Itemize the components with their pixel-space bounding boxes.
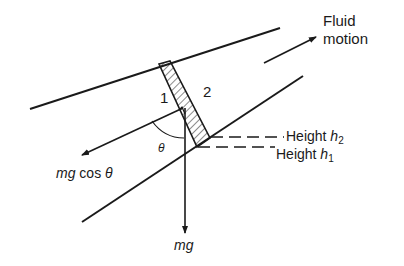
- mg-label: mg: [174, 238, 193, 252]
- section-2-label: 2: [203, 84, 211, 99]
- height-h2-label: Height h2: [286, 129, 344, 146]
- fluid-motion-label: Fluid motion: [323, 12, 368, 48]
- height-h2-text: Height: [286, 128, 330, 144]
- height-h1-text: Height: [276, 146, 320, 162]
- fluid-motion-label-line1: Fluid: [323, 12, 368, 30]
- height-h1-variable: h: [320, 146, 328, 162]
- theta-angle-arc: [152, 121, 184, 138]
- mg-cos-theta-arrow: [82, 108, 183, 155]
- streamtube-upper-wall: [30, 28, 280, 109]
- mg-cos-theta-mg: mg: [56, 165, 75, 181]
- height-h1-subscript: 1: [328, 153, 334, 164]
- streamtube-lower-wall: [82, 76, 303, 222]
- fluid-motion-label-line2: motion: [323, 30, 368, 48]
- fluid-motion-arrow: [264, 37, 316, 63]
- mg-cos-theta-theta: θ: [105, 165, 113, 181]
- height-h1-label: Height h1: [276, 147, 334, 164]
- height-h2-subscript: 2: [338, 135, 344, 146]
- height-h2-variable: h: [330, 128, 338, 144]
- mg-cos-theta-cos: cos: [75, 165, 105, 181]
- mg-cos-theta-label: mg cos θ: [56, 166, 113, 180]
- theta-label: θ: [158, 142, 165, 154]
- section-1-label: 1: [160, 90, 168, 105]
- diagram-canvas: Fluid motion 1 2 Height h2 Height h1 θ m…: [0, 0, 404, 266]
